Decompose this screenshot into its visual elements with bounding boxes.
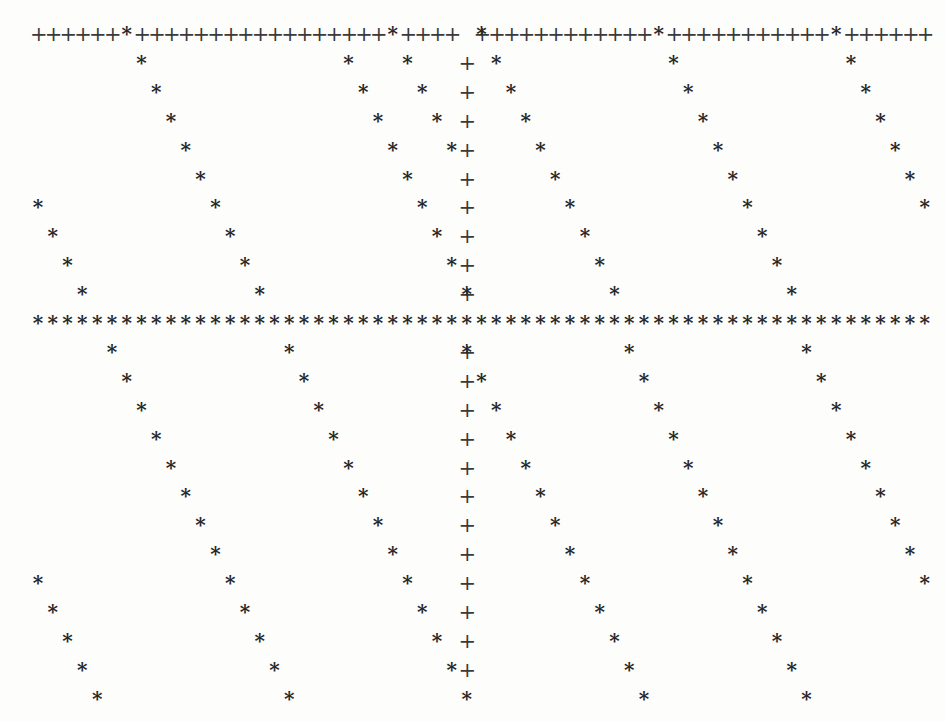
star-glyph: *	[429, 226, 445, 248]
star-glyph: *	[725, 544, 741, 566]
plus-glyph: +	[459, 544, 475, 566]
star-glyph: *	[385, 313, 401, 335]
plus-glyph: +	[606, 24, 622, 46]
plus-glyph: +	[133, 24, 149, 46]
star-glyph: *	[680, 82, 696, 104]
plus-glyph: +	[459, 111, 475, 133]
star-glyph: *	[725, 313, 741, 335]
plus-glyph: +	[459, 515, 475, 537]
plus-glyph: +	[459, 82, 475, 104]
star-glyph: *	[547, 515, 563, 537]
star-glyph: *	[710, 140, 726, 162]
star-glyph: *	[459, 313, 475, 335]
star-glyph: *	[355, 486, 371, 508]
star-glyph: *	[666, 53, 682, 75]
star-glyph: *	[799, 342, 815, 364]
star-glyph: *	[74, 313, 90, 335]
star-glyph: *	[400, 313, 416, 335]
star-glyph: *	[858, 458, 874, 480]
star-glyph: *	[651, 24, 667, 46]
star-glyph: *	[533, 313, 549, 335]
plus-glyph: +	[621, 24, 637, 46]
star-glyph: *	[414, 82, 430, 104]
star-glyph: *	[178, 486, 194, 508]
character-grid-plot: ++++++++++++++++++++++++++++++++++++++++…	[0, 0, 945, 722]
plus-glyph: +	[89, 24, 105, 46]
star-glyph: *	[636, 313, 652, 335]
star-glyph: *	[872, 486, 888, 508]
star-glyph: *	[843, 53, 859, 75]
star-glyph: *	[562, 313, 578, 335]
star-glyph: *	[104, 342, 120, 364]
plus-glyph: +	[459, 458, 475, 480]
star-glyph: *	[133, 400, 149, 422]
plus-glyph: +	[193, 24, 209, 46]
plus-glyph: +	[503, 24, 519, 46]
star-glyph: *	[400, 573, 416, 595]
star-glyph: *	[606, 631, 622, 653]
star-glyph: *	[651, 313, 667, 335]
star-glyph: *	[488, 400, 504, 422]
star-glyph: *	[488, 53, 504, 75]
star-glyph: *	[119, 24, 135, 46]
star-glyph: *	[252, 631, 268, 653]
plus-glyph: +	[887, 24, 903, 46]
star-glyph: *	[872, 111, 888, 133]
star-glyph: *	[355, 313, 371, 335]
star-glyph: *	[281, 342, 297, 364]
plus-glyph: +	[459, 226, 475, 248]
star-glyph: *	[459, 342, 475, 364]
plus-glyph: +	[30, 24, 46, 46]
plus-glyph: +	[74, 24, 90, 46]
star-glyph: *	[148, 313, 164, 335]
plus-glyph: +	[459, 197, 475, 219]
star-glyph: *	[739, 573, 755, 595]
star-glyph: *	[769, 631, 785, 653]
star-glyph: *	[651, 400, 667, 422]
plus-glyph: +	[636, 24, 652, 46]
star-glyph: *	[370, 313, 386, 335]
star-glyph: *	[45, 313, 61, 335]
plus-glyph: +	[488, 24, 504, 46]
plus-glyph: +	[429, 24, 445, 46]
star-glyph: *	[133, 53, 149, 75]
plus-glyph: +	[148, 24, 164, 46]
star-glyph: *	[887, 515, 903, 537]
plus-glyph: +	[326, 24, 342, 46]
star-glyph: *	[429, 111, 445, 133]
star-glyph: *	[89, 689, 105, 711]
star-glyph: *	[60, 631, 76, 653]
star-glyph: *	[281, 689, 297, 711]
plus-glyph: +	[459, 371, 475, 393]
plus-glyph: +	[562, 24, 578, 46]
plus-glyph: +	[459, 573, 475, 595]
star-glyph: *	[621, 313, 637, 335]
plus-glyph: +	[695, 24, 711, 46]
star-glyph: *	[917, 313, 933, 335]
plus-glyph: +	[518, 24, 534, 46]
plus-glyph: +	[858, 24, 874, 46]
star-glyph: *	[887, 140, 903, 162]
star-glyph: *	[577, 573, 593, 595]
star-glyph: *	[518, 111, 534, 133]
star-glyph: *	[444, 660, 460, 682]
plus-glyph: +	[311, 24, 327, 46]
plus-glyph: +	[60, 24, 76, 46]
star-glyph: *	[636, 689, 652, 711]
star-glyph: *	[222, 226, 238, 248]
plus-glyph: +	[252, 24, 268, 46]
star-glyph: *	[784, 284, 800, 306]
star-glyph: *	[340, 458, 356, 480]
star-glyph: *	[148, 82, 164, 104]
star-glyph: *	[281, 313, 297, 335]
star-glyph: *	[326, 429, 342, 451]
plus-glyph: +	[813, 24, 829, 46]
plus-glyph: +	[281, 24, 297, 46]
plus-glyph: +	[917, 24, 933, 46]
plus-glyph: +	[45, 24, 61, 46]
star-glyph: *	[400, 53, 416, 75]
plus-glyph: +	[459, 429, 475, 451]
star-glyph: *	[193, 313, 209, 335]
star-glyph: *	[296, 371, 312, 393]
plus-glyph: +	[370, 24, 386, 46]
